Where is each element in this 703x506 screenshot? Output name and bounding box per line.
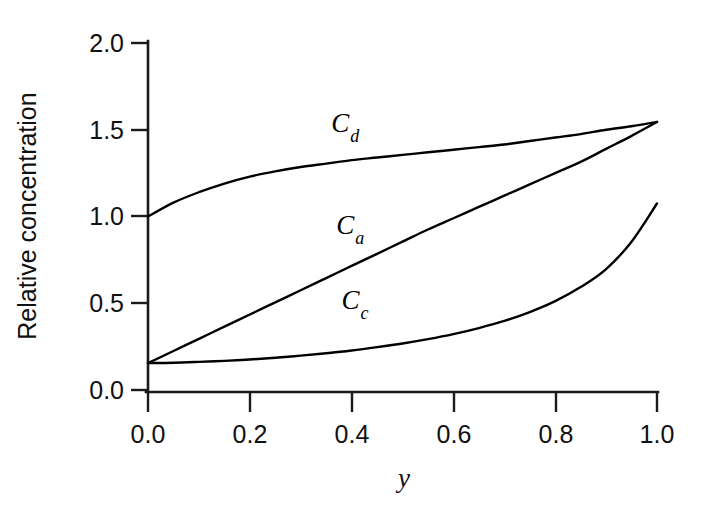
curve-label-Cd: C d bbox=[331, 108, 360, 146]
x-tick-label-0_6: 0.6 bbox=[437, 420, 472, 448]
curve-Ca bbox=[148, 122, 657, 363]
x-tick-labels-group: 0.0 0.2 0.4 0.6 0.8 1.0 bbox=[131, 420, 675, 448]
curve-label-Cd-subscript: d bbox=[350, 126, 360, 146]
curves-group bbox=[148, 122, 657, 363]
y-tick-label-1_5: 1.5 bbox=[89, 116, 124, 144]
curve-label-Ca-subscript: a bbox=[355, 228, 364, 248]
curve-label-Cd-letter: C bbox=[331, 108, 350, 138]
x-tick-label-1: 1.0 bbox=[640, 420, 675, 448]
x-tick-label-0: 0.0 bbox=[131, 420, 166, 448]
axes-group bbox=[146, 41, 658, 392]
curve-label-Cc: C c bbox=[341, 285, 368, 323]
x-tick-label-0_2: 0.2 bbox=[233, 420, 268, 448]
x-axis-title: y bbox=[395, 463, 410, 493]
y-tick-label-2: 2.0 bbox=[89, 29, 124, 57]
y-axis-title: Relative concentration bbox=[13, 92, 41, 339]
curve-label-Cc-letter: C bbox=[341, 285, 360, 315]
curve-Cd bbox=[148, 122, 657, 217]
curve-label-Ca-letter: C bbox=[336, 210, 355, 240]
y-tick-labels-group: 2.0 1.5 1.0 0.5 0.0 bbox=[89, 29, 124, 404]
x-tick-label-0_8: 0.8 bbox=[539, 420, 574, 448]
curve-label-Ca: C a bbox=[336, 210, 364, 248]
x-tick-label-0_4: 0.4 bbox=[335, 420, 370, 448]
curve-Cc bbox=[148, 203, 657, 363]
y-tick-label-0_5: 0.5 bbox=[89, 289, 124, 317]
x-ticks-group bbox=[148, 392, 657, 412]
curve-annotations-group: C d C a C c bbox=[331, 108, 368, 323]
y-tick-label-1: 1.0 bbox=[89, 202, 124, 230]
chart-figure: 2.0 1.5 1.0 0.5 0.0 0.0 0.2 0.4 0.6 0.8 … bbox=[0, 0, 703, 506]
chart-svg: 2.0 1.5 1.0 0.5 0.0 0.0 0.2 0.4 0.6 0.8 … bbox=[0, 0, 703, 506]
y-tick-label-0: 0.0 bbox=[89, 376, 124, 404]
curve-label-Cc-subscript: c bbox=[360, 303, 368, 323]
y-ticks-group bbox=[131, 43, 148, 390]
